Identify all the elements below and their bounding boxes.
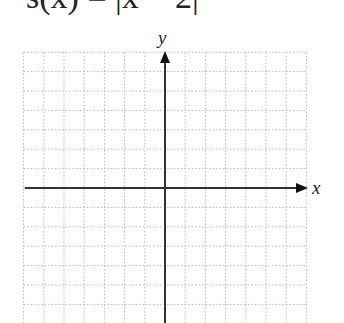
x-axis-label: x xyxy=(311,177,321,198)
coordinate-grid: x y xyxy=(0,0,344,323)
x-axis-arrow-icon xyxy=(296,183,308,193)
y-axis-label: y xyxy=(156,27,167,48)
y-axis-arrow-icon xyxy=(160,51,170,63)
